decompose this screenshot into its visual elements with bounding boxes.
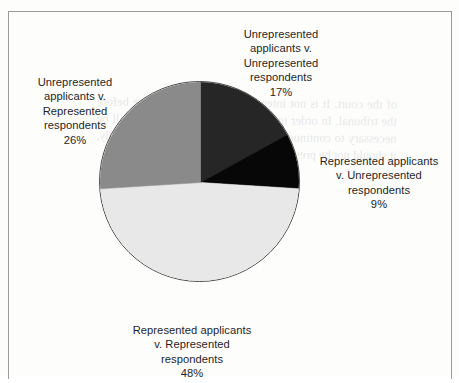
pie-slice: [100, 183, 300, 283]
pie-label-text: Represented applicants v. Unrepresented …: [320, 155, 439, 196]
pie-label-percent: 17%: [214, 85, 348, 100]
pie-label-percent: 26%: [14, 133, 136, 148]
pie-label-represented-v-unrepresented: Represented applicants v. Unrepresented …: [305, 139, 453, 227]
pie-label-text: Unrepresented applicants v. Represented …: [38, 76, 113, 132]
pie-label-text: Unrepresented applicants v. Unrepresente…: [244, 28, 319, 84]
pie-label-percent: 48%: [108, 366, 276, 381]
pie-label-text: Represented applicants v. Represented re…: [133, 324, 252, 365]
pie-label-unrepresented-v-unrepresented: Unrepresented applicants v. Unrepresente…: [214, 12, 348, 114]
pie-label-percent: 9%: [305, 197, 453, 212]
pie-label-represented-v-represented: Represented applicants v. Represented re…: [108, 308, 276, 383]
pie-label-unrepresented-v-represented: Unrepresented applicants v. Represented …: [14, 60, 136, 162]
